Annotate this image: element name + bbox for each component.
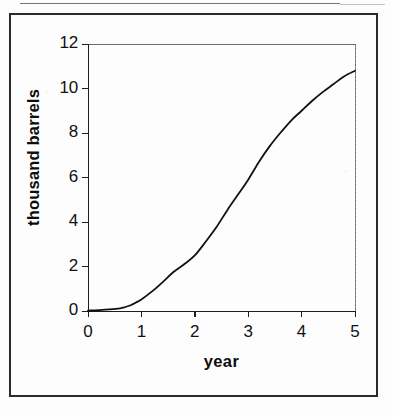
series-cumulative-production	[88, 71, 355, 311]
y-tick-label-wrap: 12	[40, 33, 78, 53]
scanned-page: 024681012 012345 thousand barrels year	[0, 0, 393, 417]
x-tick-mark	[194, 311, 195, 317]
x-tick-mark	[141, 311, 142, 317]
x-tick-mark	[301, 311, 302, 317]
y-tick-label-wrap: 8	[40, 122, 78, 142]
plot-border-right	[355, 44, 356, 312]
x-tick-label: 4	[289, 322, 315, 342]
line-chart: 024681012 012345 thousand barrels year	[0, 0, 393, 417]
y-tick-label-wrap: 6	[40, 167, 78, 187]
x-tick-label: 3	[235, 322, 261, 342]
x-axis-title: year	[88, 352, 355, 371]
y-tick-label: 12	[40, 33, 78, 53]
data-curve	[88, 44, 355, 311]
y-tick-label: 10	[40, 78, 78, 98]
y-tick-label: 0	[40, 300, 78, 320]
x-tick-mark	[88, 311, 89, 317]
x-tick-label: 5	[342, 322, 368, 342]
x-tick-mark	[355, 311, 356, 317]
x-tick-label: 1	[128, 322, 154, 342]
y-tick-label: 8	[40, 122, 78, 142]
x-tick-label: 2	[182, 322, 208, 342]
y-tick-label: 4	[40, 211, 78, 231]
y-tick-label: 2	[40, 256, 78, 276]
x-tick-mark	[248, 311, 249, 317]
x-tick-label: 0	[75, 322, 101, 342]
y-tick-label-wrap: 2	[40, 256, 78, 276]
y-tick-label: 6	[40, 167, 78, 187]
y-tick-label-wrap: 10	[40, 78, 78, 98]
x-axis-line	[88, 311, 356, 312]
y-tick-label-wrap: 0	[40, 300, 78, 320]
y-axis-title: thousand barrels	[24, 63, 43, 253]
y-tick-label-wrap: 4	[40, 211, 78, 231]
